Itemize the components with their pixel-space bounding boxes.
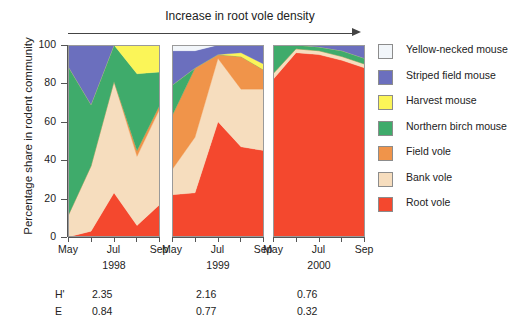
x-tick xyxy=(91,237,92,242)
x-tick xyxy=(240,237,241,242)
x-tick xyxy=(218,237,219,242)
area-series xyxy=(273,53,365,237)
legend-label: Northern birch mouse xyxy=(406,120,507,132)
y-tick xyxy=(61,237,67,238)
y-axis-label: Percentage share in rodent community xyxy=(22,16,34,256)
x-tick xyxy=(341,237,342,242)
legend-swatch-icon xyxy=(378,44,393,59)
y-tick xyxy=(61,160,67,161)
x-tick xyxy=(68,237,69,242)
panel-year-label: 1998 xyxy=(84,259,144,271)
trend-arrow-line xyxy=(68,33,354,34)
y-tick-label: 40 xyxy=(26,153,56,165)
legend-swatch-icon xyxy=(378,121,393,136)
legend-label: Field vole xyxy=(406,145,451,157)
y-tick xyxy=(61,122,67,123)
y-tick xyxy=(61,83,67,84)
x-tick-label: May xyxy=(253,243,293,255)
chart-figure: Percentage share in rodent community Inc… xyxy=(0,0,525,326)
stat-value: 2.35 xyxy=(92,288,138,300)
x-tick-label: Jul xyxy=(94,243,134,255)
stat-value: 2.16 xyxy=(196,288,242,300)
x-tick xyxy=(273,237,274,242)
x-tick xyxy=(114,237,115,242)
x-tick-label: Jul xyxy=(198,243,238,255)
x-tick-label: May xyxy=(48,243,88,255)
legend-label: Bank vole xyxy=(406,171,452,183)
trend-arrow-head-icon xyxy=(352,28,361,36)
stat-value: 0.84 xyxy=(92,305,138,317)
stat-row-key: H' xyxy=(55,288,65,300)
y-tick-label: 60 xyxy=(26,115,56,127)
legend-label: Yellow-necked mouse xyxy=(406,43,508,55)
x-tick-label: May xyxy=(152,243,192,255)
legend-label: Root vole xyxy=(406,196,450,208)
x-tick xyxy=(172,237,173,242)
y-tick-label: 0 xyxy=(26,230,56,242)
x-tick xyxy=(159,237,160,242)
x-tick xyxy=(296,237,297,242)
x-tick xyxy=(195,237,196,242)
chart-panel-1998 xyxy=(68,45,160,237)
y-tick xyxy=(61,199,67,200)
legend-swatch-icon xyxy=(378,172,393,187)
y-tick-label: 80 xyxy=(26,76,56,88)
x-tick-label: Jul xyxy=(299,243,339,255)
stat-value: 0.77 xyxy=(196,305,242,317)
x-tick xyxy=(319,237,320,242)
x-tick xyxy=(364,237,365,242)
legend-label: Harvest mouse xyxy=(406,94,477,106)
chart-panel-2000 xyxy=(273,45,365,237)
chart-panel-1999 xyxy=(172,45,264,237)
legend-swatch-icon xyxy=(378,70,393,85)
legend-label: Striped field mouse xyxy=(406,69,496,81)
y-tick xyxy=(61,45,67,46)
x-tick-label: Sep xyxy=(344,243,384,255)
panel-year-label: 1999 xyxy=(188,259,248,271)
legend-swatch-icon xyxy=(378,95,393,110)
legend-swatch-icon xyxy=(378,197,393,212)
legend-swatch-icon xyxy=(378,146,393,161)
panel-year-label: 2000 xyxy=(289,259,349,271)
x-tick xyxy=(263,237,264,242)
chart-title: Increase in root vole density xyxy=(100,9,380,23)
x-tick xyxy=(136,237,137,242)
stat-value: 0.76 xyxy=(297,288,343,300)
y-tick-label: 20 xyxy=(26,192,56,204)
stat-value: 0.32 xyxy=(297,305,343,317)
stat-row-key: E xyxy=(55,305,62,317)
y-tick-label: 100 xyxy=(26,38,56,50)
